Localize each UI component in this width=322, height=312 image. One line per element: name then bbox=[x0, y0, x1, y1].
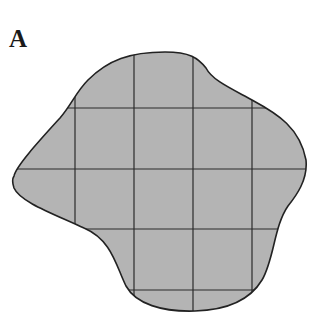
blob-shape bbox=[13, 52, 307, 311]
grid-blob-figure bbox=[0, 0, 322, 312]
